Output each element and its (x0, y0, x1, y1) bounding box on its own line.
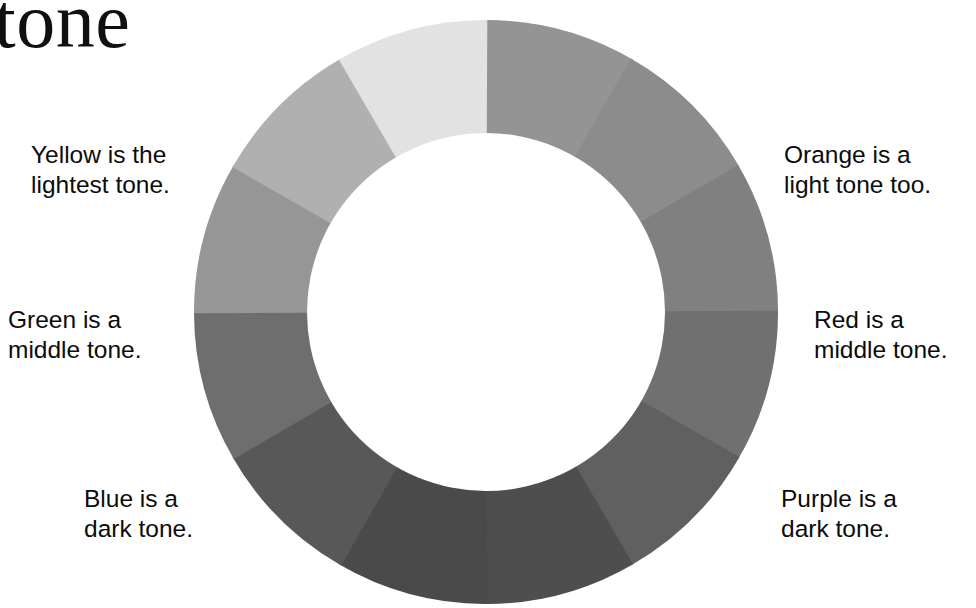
tone-wheel-inner-circle (307, 133, 665, 491)
callout-orange: Orange is a light tone too. (784, 140, 931, 200)
tone-wheel-page: tone Yellow is the lightest tone. Orange… (0, 0, 976, 608)
tone-wheel (194, 20, 778, 604)
callout-blue: Blue is a dark tone. (84, 484, 193, 544)
callout-purple: Purple is a dark tone. (781, 484, 897, 544)
page-title: tone (0, 0, 130, 60)
tone-wheel-svg (194, 20, 778, 604)
callout-green: Green is a middle tone. (8, 305, 141, 365)
callout-red: Red is a middle tone. (814, 305, 947, 365)
callout-yellow: Yellow is the lightest tone. (31, 140, 170, 200)
